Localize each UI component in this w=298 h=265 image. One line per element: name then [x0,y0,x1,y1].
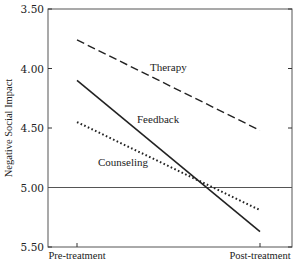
y-axis-tick-labels: 3.504.004.505.005.50 [21,3,44,253]
y-tick-label: 4.00 [21,63,44,75]
x-label-post: Post-treatment [229,250,290,261]
y-tick-label: 5.50 [21,241,44,253]
y-axis-ticks [48,9,52,247]
y-axis-label: Negative Social Impact [3,79,14,178]
y-tick-label: 5.00 [21,182,44,194]
line-chart: 3.504.004.505.005.50 Pre-treatment Post-… [0,0,298,265]
x-label-pre: Pre-treatment [48,250,105,261]
series-label-counseling: Counseling [98,156,149,168]
y-tick-label: 3.50 [21,3,44,15]
y-axis-ticks-right [288,9,292,247]
series-label-therapy: Therapy [150,61,187,73]
y-tick-label: 4.50 [21,122,44,134]
series-label-feedback: Feedback [137,113,180,125]
